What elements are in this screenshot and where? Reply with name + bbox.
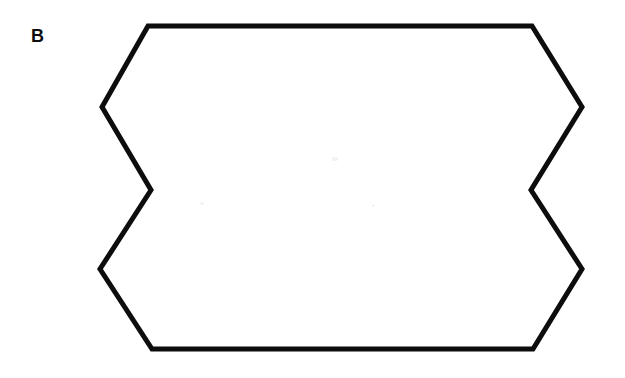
- panel-label: B: [31, 27, 44, 45]
- shape-diagram-canvas: [0, 0, 625, 378]
- figure-panel: B: [0, 0, 625, 378]
